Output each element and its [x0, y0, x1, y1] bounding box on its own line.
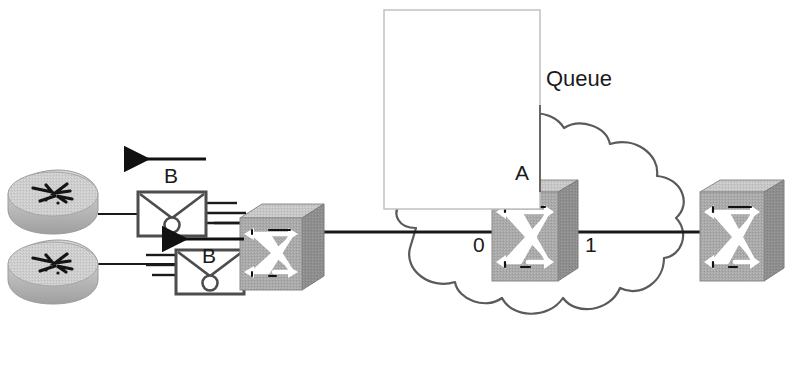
switch-right-icon — [700, 180, 784, 281]
envelope-top-icon — [138, 192, 206, 236]
traffic-label-b-bottom: B — [202, 245, 216, 266]
port-0-label: 0 — [473, 234, 485, 255]
router-bottom-icon — [8, 240, 98, 304]
port-1-label: 1 — [585, 234, 597, 255]
network-diagram-canvas: B B Queue A 0 1 — [0, 0, 788, 365]
diagram-svg — [0, 0, 788, 365]
traffic-label-b-top: B — [164, 165, 178, 186]
router-top-icon — [8, 170, 98, 234]
switch-left-icon — [240, 204, 324, 290]
switch-a-label: A — [515, 162, 529, 183]
queue-label: Queue — [546, 68, 612, 90]
